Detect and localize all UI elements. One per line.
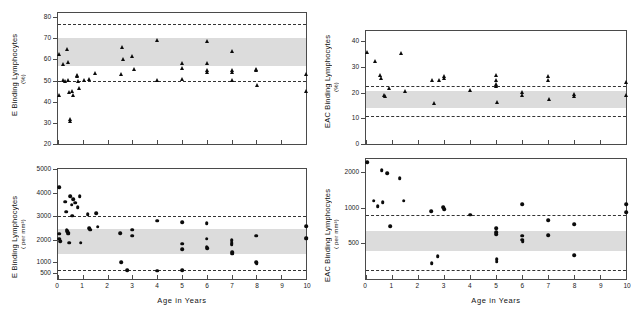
data-point [88, 228, 92, 232]
data-point [66, 78, 70, 82]
y-axis-tick-label: 500 [40, 270, 51, 277]
data-point [95, 211, 99, 215]
reference-line-upper [58, 24, 306, 25]
data-point [155, 269, 159, 273]
axis-title-x-bottom-right: Age in Years [365, 296, 627, 305]
plot-area-top-right: 010203040 [365, 30, 627, 145]
data-point [78, 194, 82, 198]
data-point [304, 89, 308, 93]
data-point [205, 39, 209, 43]
x-axis-tick-label: 2 [105, 283, 109, 290]
y-axis-tick-label: 500 [348, 240, 359, 247]
x-axis-tick-label: 4 [155, 283, 159, 290]
data-point [70, 89, 74, 93]
figure-container: E Binding Lymphocytes (%) 20304050607080… [0, 0, 634, 317]
y-axis-tick-label: 30 [352, 64, 359, 71]
axis-title-y-top-left: E Binding Lymphocytes [10, 20, 19, 130]
data-point [255, 234, 259, 238]
data-point [93, 71, 97, 75]
data-point [68, 119, 72, 123]
y-axis-tick-label: 50 [44, 77, 51, 84]
x-axis-tick [522, 275, 523, 279]
data-point [386, 172, 390, 176]
x-axis-tick [83, 140, 84, 144]
y-axis-tick-label: 1000 [37, 259, 51, 266]
plot-area-bottom-left: 50010002000300040005000 [57, 168, 307, 280]
axis-title-y-units-bottom-right: ( per mm³) [333, 212, 339, 256]
data-point [572, 94, 576, 98]
data-point [430, 78, 434, 82]
data-point [120, 45, 124, 49]
data-point [442, 76, 446, 80]
x-axis-tick [58, 140, 59, 144]
y-axis-tick-label: 20 [44, 141, 51, 148]
x-axis-tick [470, 275, 471, 279]
y-axis-tick [53, 273, 58, 274]
data-point [87, 77, 91, 81]
axis-title-y-units: ( per mm³) [20, 219, 26, 249]
data-point [381, 200, 385, 204]
x-axis-tick [207, 140, 208, 144]
data-point [155, 78, 159, 82]
y-axis-tick [53, 38, 58, 39]
axis-title-y-units-top-left: (%) [20, 62, 26, 96]
data-point [130, 54, 134, 58]
x-axis-tick [256, 275, 257, 279]
x-axis-tick [256, 140, 257, 144]
data-point [494, 73, 498, 77]
data-point [624, 202, 628, 206]
data-point [430, 261, 434, 265]
y-axis-tick-label: 2000 [37, 237, 51, 244]
x-axis-tick [600, 275, 601, 279]
panel-bottom-right: EAC Binding Lymphocytes ( per mm³) 50010… [317, 160, 634, 317]
x-axis-tick [444, 140, 445, 144]
data-point [387, 86, 391, 90]
data-point [495, 100, 499, 104]
plot-area-bottom-right: 50010002000 [365, 158, 627, 280]
data-point [432, 101, 436, 105]
data-point [181, 269, 185, 273]
x-axis-tick [444, 275, 445, 279]
data-point [180, 77, 184, 81]
x-axis-tick [418, 140, 419, 144]
axis-title-x-text: Age in Years [471, 296, 520, 305]
reference-line-lower [366, 116, 626, 117]
y-axis-tick [53, 262, 58, 263]
axis-title-y-units: (%) [20, 74, 26, 84]
x-axis-tick [281, 140, 282, 144]
x-axis-tick-label: 4 [468, 283, 472, 290]
data-point [521, 240, 525, 244]
data-point [572, 253, 576, 257]
data-point [132, 67, 136, 71]
data-point [230, 70, 234, 74]
data-point [376, 205, 380, 209]
data-point [119, 261, 123, 265]
data-point [58, 239, 62, 243]
x-axis-tick [157, 140, 158, 144]
y-axis-tick [361, 243, 366, 244]
y-axis-tick-label: 70 [44, 35, 51, 42]
y-axis-tick-label: 5000 [37, 166, 51, 173]
data-point [180, 247, 184, 251]
y-axis-tick [53, 193, 58, 194]
data-point [71, 93, 75, 97]
data-point [77, 86, 81, 90]
x-axis-tick [132, 140, 133, 144]
x-axis-tick-label: 1 [80, 283, 84, 290]
x-axis-tick [58, 275, 59, 279]
data-point [494, 84, 498, 88]
data-point [383, 94, 387, 98]
axis-title-y-main: EAC Binding Lymphocytes [323, 34, 332, 127]
data-point [230, 243, 234, 247]
data-point [86, 213, 90, 217]
y-axis-tick-label: 40 [44, 98, 51, 105]
data-point [65, 47, 69, 51]
y-axis-tick-label: 0 [355, 141, 359, 148]
data-point [205, 237, 209, 241]
x-axis-tick [108, 275, 109, 279]
x-axis-tick-label: 8 [255, 283, 259, 290]
y-axis-tick [53, 17, 58, 18]
data-point [57, 232, 61, 236]
data-point [468, 213, 472, 217]
data-point [520, 203, 524, 207]
